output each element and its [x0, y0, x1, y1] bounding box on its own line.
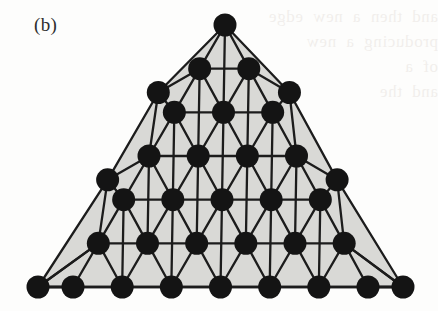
- triangular-lattice-diagram: [0, 0, 438, 311]
- lattice-node-r0-c0: [214, 14, 237, 37]
- lattice-node-r3-c3: [285, 145, 308, 168]
- edge-node-left-1: [96, 168, 119, 191]
- lattice-node-r5-c5: [333, 232, 356, 255]
- lattice-node-r1-c1: [237, 57, 260, 80]
- lattice-node-r6-c4: [258, 276, 281, 299]
- edge-node-left-0: [147, 81, 170, 104]
- lattice-node-r3-c0: [138, 145, 161, 168]
- lattice-node-r5-c3: [234, 232, 257, 255]
- lattice-node-r6-c2: [160, 276, 183, 299]
- lattice-node-r4-c0: [112, 188, 135, 211]
- figure-panel-b: and then a new edge producing a new of a…: [0, 0, 438, 311]
- edge-node-right-0: [278, 81, 301, 104]
- lattice-node-r3-c2: [236, 145, 259, 168]
- lattice-node-r2-c1: [212, 101, 235, 124]
- lattice-node-r5-c1: [136, 232, 159, 255]
- edge-node-right-1: [326, 168, 349, 191]
- lattice-node-r6-c6: [357, 276, 380, 299]
- lattice-node-r4-c4: [309, 188, 332, 211]
- lattice-node-r2-c0: [163, 101, 186, 124]
- edge-node-right-2: [392, 276, 415, 299]
- lattice-node-r5-c0: [87, 232, 110, 255]
- lattice-node-r4-c1: [161, 188, 184, 211]
- lattice-node-r5-c4: [284, 232, 307, 255]
- lattice-node-r6-c3: [209, 276, 232, 299]
- lattice-node-r4-c2: [211, 188, 234, 211]
- lattice-node-r1-c0: [188, 57, 211, 80]
- lattice-node-r3-c1: [187, 145, 210, 168]
- lattice-node-r4-c3: [260, 188, 283, 211]
- edge-node-left-2: [27, 276, 50, 299]
- lattice-node-r6-c1: [111, 276, 134, 299]
- lattice-node-r6-c5: [307, 276, 330, 299]
- lattice-node-r5-c2: [185, 232, 208, 255]
- lattice-node-r6-c0: [62, 276, 85, 299]
- lattice-node-r2-c2: [261, 101, 284, 124]
